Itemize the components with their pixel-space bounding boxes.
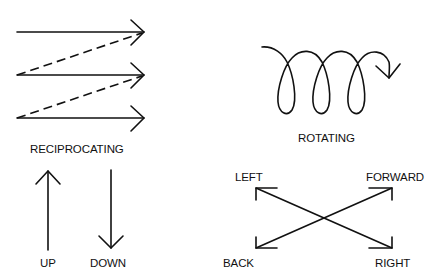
arrowhead-down-icon [376, 64, 400, 78]
reciprocating-arrows [17, 20, 144, 131]
up-label: UP [40, 257, 56, 269]
back-label: BACK [223, 257, 254, 269]
rotating-label: ROTATING [298, 132, 355, 144]
dashed-return-line [17, 76, 142, 118]
arrow-right-icon [17, 63, 144, 88]
arrow-right-icon [17, 106, 144, 131]
forward-label: FORWARD [366, 171, 424, 183]
arrow-up-icon [36, 171, 60, 250]
diagram-graphics [0, 0, 444, 279]
motion-types-diagram: RECIPROCATING ROTATING UP DOWN LEFT FORW… [0, 0, 444, 279]
down-label: DOWN [90, 257, 126, 269]
rotating-coil-icon [262, 47, 400, 114]
right-label: RIGHT [375, 257, 410, 269]
arrow-down-icon [99, 170, 123, 248]
reciprocating-label: RECIPROCATING [30, 143, 124, 155]
dashed-return-line [17, 33, 142, 75]
arrow-right-icon [17, 20, 144, 45]
left-label: LEFT [235, 171, 263, 183]
